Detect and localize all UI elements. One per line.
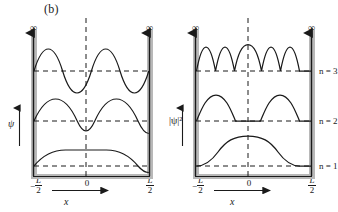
curve-psi2-n1 [197, 136, 312, 166]
panel-wavefunction: (b) ∞ ∞ ψ x −L2 0 L2 [0, 0, 168, 212]
curve-psi2-n2 [197, 95, 312, 121]
panel-probability-density: ∞ ∞ |ψ|² x −L2 0 L2 n = 3 n = 2 n = 1 [168, 0, 336, 212]
curve-psi-n3 [34, 49, 149, 93]
curve-psi-n1 [34, 150, 149, 173]
curve-psi-n2-upper [34, 99, 149, 134]
panel-wavefunction-graphic [0, 0, 168, 212]
panel-probability-density-graphic [168, 0, 337, 212]
